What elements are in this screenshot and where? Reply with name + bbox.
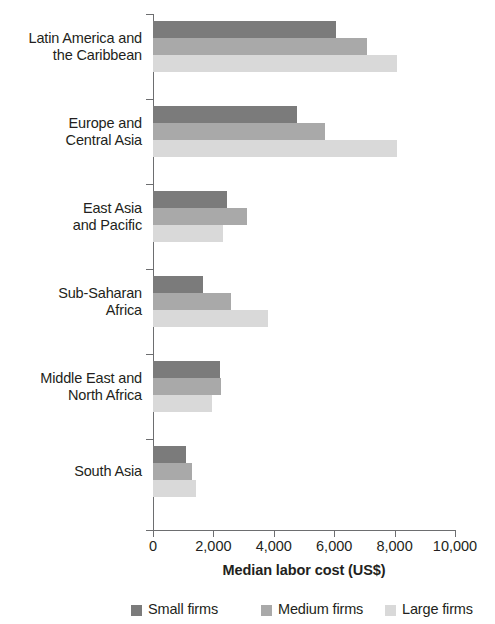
bar-group <box>153 446 461 497</box>
bar <box>153 140 397 157</box>
bar <box>153 395 212 412</box>
category-label-5: Middle East and North Africa <box>0 370 146 404</box>
x-axis-tick-label: 8,000 <box>376 538 412 555</box>
legend-item: Small firms <box>131 600 218 618</box>
bar <box>153 310 268 327</box>
bar <box>153 463 192 480</box>
bar <box>153 38 367 55</box>
category-label-text: Europe and Central Asia <box>0 115 142 149</box>
legend-swatch-icon <box>131 605 142 616</box>
bar <box>153 123 325 140</box>
bar-group <box>153 276 461 327</box>
x-axis-title: Median labor cost (US$) <box>153 562 455 578</box>
x-axis-tick-label: 4,000 <box>256 538 292 555</box>
bar <box>153 106 297 123</box>
category-label-text: Middle East and North Africa <box>0 370 142 404</box>
x-axis-tick-label: 0 <box>149 538 157 555</box>
category-label-3: East Asia and Pacific <box>0 200 146 234</box>
bar <box>153 276 203 293</box>
category-label-2: Europe and Central Asia <box>0 115 146 149</box>
x-axis-tick <box>153 530 154 537</box>
bar-group <box>153 106 461 157</box>
x-axis-tick-label: 2,000 <box>195 538 231 555</box>
bar-group <box>153 191 461 242</box>
chart-legend: Small firmsMedium firmsLarge firms <box>0 600 495 620</box>
bar <box>153 361 220 378</box>
x-axis-tick-label: 10,000 <box>433 538 477 555</box>
bar-group <box>153 361 461 412</box>
bar <box>153 225 223 242</box>
x-axis-tick <box>213 530 214 537</box>
x-axis-tick-label: 6,000 <box>316 538 352 555</box>
bar <box>153 208 247 225</box>
bar <box>153 446 186 463</box>
legend-item: Medium firms <box>261 600 363 618</box>
x-axis-tick <box>455 530 456 537</box>
category-label-text: East Asia and Pacific <box>0 200 142 234</box>
legend-swatch-icon <box>385 605 396 616</box>
legend-label: Medium firms <box>278 600 363 618</box>
bar <box>153 480 196 497</box>
bar <box>153 55 397 72</box>
bars-layer <box>153 14 461 530</box>
x-axis-line <box>153 530 455 531</box>
category-label-6: South Asia <box>0 463 146 480</box>
legend-label: Large firms <box>402 600 473 618</box>
x-axis-tick <box>274 530 275 537</box>
category-label-1: Latin America and the Caribbean <box>0 30 146 64</box>
category-label-text: South Asia <box>0 463 142 480</box>
bar <box>153 293 231 310</box>
category-label-text: Sub-Saharan Africa <box>0 285 142 319</box>
bar <box>153 191 227 208</box>
x-axis-tick <box>334 530 335 537</box>
category-label-4: Sub-Saharan Africa <box>0 285 146 319</box>
legend-swatch-icon <box>261 605 272 616</box>
x-axis-tick <box>395 530 396 537</box>
legend-item: Large firms <box>385 600 473 618</box>
category-label-text: Latin America and the Caribbean <box>0 30 142 64</box>
legend-label: Small firms <box>148 600 218 618</box>
horizontal-bar-chart: Latin America and the CaribbeanEurope an… <box>0 0 495 624</box>
bar <box>153 21 336 38</box>
bar <box>153 378 221 395</box>
bar-group <box>153 21 461 72</box>
